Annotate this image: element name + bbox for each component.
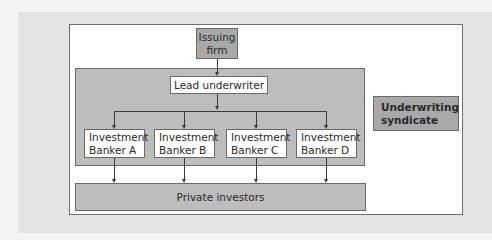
connector-a-to-investors: [114, 158, 115, 179]
private-investors-node: Private investors: [75, 183, 366, 211]
connector-to-banker-b: [184, 111, 185, 125]
branch-horizontal-line: [114, 111, 327, 112]
banker-a-line2: Banker A: [89, 144, 136, 156]
connector-to-banker-d: [326, 111, 327, 125]
lead-underwriter-node: Lead underwriter: [170, 76, 268, 94]
banker-a-line1: Investment: [89, 131, 148, 143]
connector-to-banker-a: [114, 111, 115, 125]
investment-banker-b-node: InvestmentBanker B: [154, 129, 215, 158]
banker-b-line2: Banker B: [159, 144, 206, 156]
syndicate-label-line1: Underwriting: [381, 101, 459, 113]
underwriting-syndicate-label-box: Underwritingsyndicate: [373, 96, 459, 131]
investment-banker-c-node: InvestmentBanker C: [226, 129, 287, 158]
arrowhead-icon: [215, 106, 219, 110]
syndicate-label-line2: syndicate: [381, 114, 438, 126]
issuing-firm-node: Issuing firm: [196, 28, 238, 59]
connector-c-to-investors: [256, 158, 257, 179]
banker-d-line1: Investment: [301, 131, 360, 143]
banker-b-line1: Investment: [159, 131, 218, 143]
connector-d-to-investors: [326, 158, 327, 179]
banker-c-line1: Investment: [231, 131, 290, 143]
banker-d-line2: Banker D: [301, 144, 349, 156]
connector-to-banker-c: [256, 111, 257, 125]
banker-c-line2: Banker C: [231, 144, 278, 156]
connector-b-to-investors: [184, 158, 185, 179]
investment-banker-a-node: InvestmentBanker A: [84, 129, 145, 158]
connector-issuing-to-lead: [217, 59, 218, 72]
private-investors-label: Private investors: [177, 191, 265, 203]
lead-underwriter-label: Lead underwriter: [174, 79, 264, 91]
issuing-firm-label: Issuing firm: [197, 31, 237, 55]
investment-banker-d-node: InvestmentBanker D: [296, 129, 357, 158]
